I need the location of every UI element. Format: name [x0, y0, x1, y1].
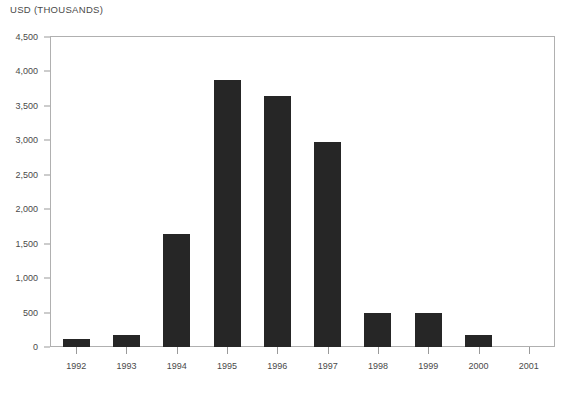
y-axis: 05001,0001,5002,0002,5003,0003,5004,0004…	[0, 36, 50, 347]
x-axis-tick-mark	[227, 347, 228, 354]
y-axis-tick-mark	[44, 140, 50, 141]
bar	[465, 335, 492, 347]
y-axis-tick-mark	[44, 71, 50, 72]
x-axis-tick-label: 2001	[519, 361, 539, 371]
bar	[415, 313, 442, 347]
x-axis-tick-mark	[328, 347, 329, 354]
y-axis-tick-label: 1,000	[15, 273, 38, 283]
y-axis-tick-label: 3,500	[15, 101, 38, 111]
x-axis-tick-mark	[177, 347, 178, 354]
x-axis-tick-label: 1994	[167, 361, 187, 371]
bar	[364, 313, 391, 347]
x-axis-tick-label: 1998	[368, 361, 388, 371]
y-axis-tick-mark	[44, 174, 50, 175]
bar	[214, 80, 241, 347]
x-axis-tick-mark	[378, 347, 379, 354]
x-axis-tick-mark	[126, 347, 127, 354]
x-axis-tick-mark	[277, 347, 278, 354]
y-axis-tick-label: 2,000	[15, 204, 38, 214]
bar	[314, 142, 341, 347]
bar	[264, 96, 291, 347]
y-axis-tick-label: 4,000	[15, 66, 38, 76]
y-axis-tick-label: 2,500	[15, 170, 38, 180]
bar	[113, 335, 140, 347]
x-axis-tick-label: 1999	[418, 361, 438, 371]
x-axis-tick-label: 1997	[318, 361, 338, 371]
x-axis-tick-mark	[76, 347, 77, 354]
y-axis-tick-mark	[44, 105, 50, 106]
y-axis-tick-label: 500	[23, 308, 38, 318]
x-axis-tick-label: 1993	[116, 361, 136, 371]
y-axis-tick-mark	[44, 312, 50, 313]
y-axis-tick-mark	[44, 243, 50, 244]
y-axis-tick-mark	[44, 278, 50, 279]
x-axis-tick-label: 1992	[66, 361, 86, 371]
x-axis-tick-mark	[479, 347, 480, 354]
y-axis-tick-label: 0	[33, 342, 38, 352]
y-axis-tick-label: 4,500	[15, 32, 38, 42]
x-axis-tick-mark	[428, 347, 429, 354]
y-axis-unit-caption: USD (THOUSANDS)	[10, 4, 103, 15]
bar	[163, 234, 190, 347]
x-axis-tick-label: 1995	[217, 361, 237, 371]
y-axis-tick-label: 3,000	[15, 135, 38, 145]
y-axis-tick-label: 1,500	[15, 239, 38, 249]
y-axis-tick-mark	[44, 37, 50, 38]
y-axis-tick-mark	[44, 209, 50, 210]
bars-layer	[51, 37, 554, 347]
x-axis-tick-label: 2000	[469, 361, 489, 371]
bar	[63, 339, 90, 347]
x-axis-tick-label: 1996	[267, 361, 287, 371]
x-axis: 1992199319941995199619971998199920002001	[50, 347, 555, 393]
x-axis-tick-mark	[529, 347, 530, 354]
bar-chart: USD (THOUSANDS) 05001,0001,5002,0002,500…	[0, 0, 572, 393]
